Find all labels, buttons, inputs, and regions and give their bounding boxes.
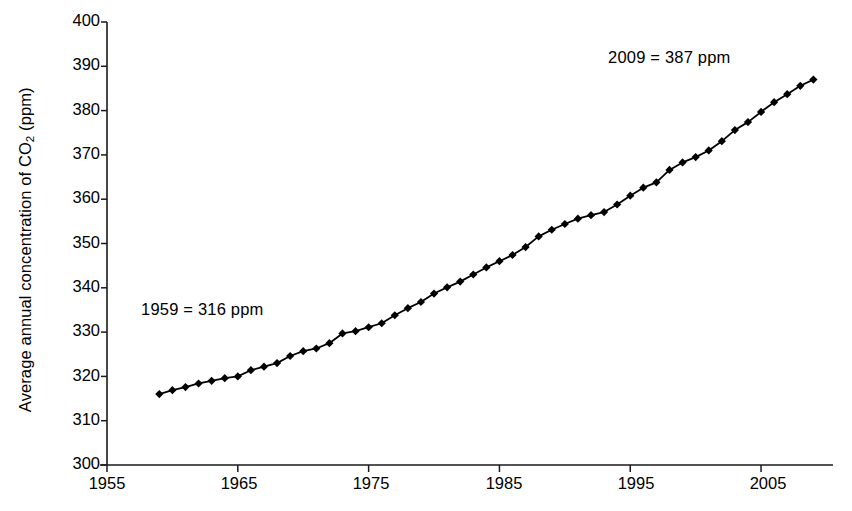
axis-lines — [100, 22, 833, 465]
data-point-1961 — [181, 383, 189, 391]
data-point-1965 — [234, 372, 242, 380]
x-axis-ticks — [107, 465, 761, 472]
co2-concentration-line-chart: Average annual concentration of CO2 (ppm… — [0, 0, 852, 511]
data-point-1983 — [469, 270, 477, 278]
data-point-1959 — [155, 390, 163, 398]
data-point-1977 — [391, 311, 399, 319]
data-point-1982 — [456, 278, 464, 286]
data-point-1969 — [286, 352, 294, 360]
data-point-1981 — [443, 283, 451, 291]
data-point-1974 — [351, 327, 359, 335]
data-point-1966 — [247, 366, 255, 374]
data-point-1978 — [404, 304, 412, 312]
co2-series-line — [159, 80, 813, 395]
data-point-1989 — [548, 226, 556, 234]
y-axis-ticks — [101, 22, 107, 465]
data-point-1992 — [587, 211, 595, 219]
data-point-1986 — [508, 251, 516, 259]
data-point-1968 — [273, 359, 281, 367]
data-point-1963 — [208, 377, 216, 385]
data-point-2009 — [809, 75, 817, 83]
data-point-1993 — [600, 208, 608, 216]
data-point-1996 — [639, 184, 647, 192]
data-point-1962 — [194, 379, 202, 387]
data-point-1967 — [260, 363, 268, 371]
data-point-1964 — [221, 374, 229, 382]
data-point-1975 — [365, 323, 373, 331]
co2-series-markers — [155, 75, 817, 398]
plot-area — [0, 0, 852, 511]
data-point-1976 — [378, 319, 386, 327]
data-point-1970 — [299, 347, 307, 355]
data-point-1991 — [574, 215, 582, 223]
data-point-1990 — [561, 220, 569, 228]
data-point-1971 — [312, 344, 320, 352]
data-point-1985 — [495, 257, 503, 265]
data-point-2000 — [692, 153, 700, 161]
data-point-1999 — [678, 158, 686, 166]
data-point-1984 — [482, 263, 490, 271]
data-point-1960 — [168, 386, 176, 394]
